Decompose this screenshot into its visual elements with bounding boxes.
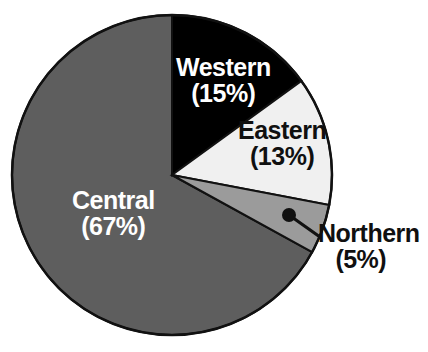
pie-chart-canvas — [0, 0, 428, 352]
pie-chart-figure: Western (15%) Eastern (13%) Central (67%… — [0, 0, 428, 352]
northern-marker-dot — [282, 208, 296, 222]
pie-slices-group — [12, 15, 332, 335]
